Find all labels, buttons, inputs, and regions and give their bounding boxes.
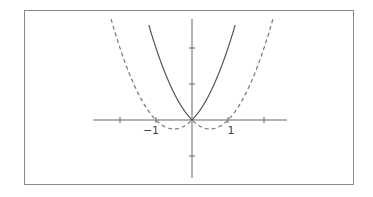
axes: −11 xyxy=(93,19,287,178)
x-tick-label: 1 xyxy=(228,124,235,137)
x-tick-label: −1 xyxy=(143,124,159,137)
function-plot: −11 xyxy=(0,0,373,197)
